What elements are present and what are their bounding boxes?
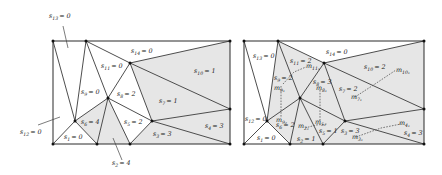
label-s1: s1= 0	[64, 133, 83, 142]
label-r-s14: s14= 0	[326, 48, 348, 57]
label-r-s5: s5= 1	[319, 127, 338, 136]
label-r-s1: s1= 0	[257, 134, 276, 143]
label-s10: s10= 1	[194, 67, 216, 76]
label-s5: s5= 2	[124, 118, 143, 127]
label-r-s9: s9= 2	[274, 74, 293, 83]
triangulation-figure: s13= 0 s12= 0 s2= 4 s14= 0 s11= 0 s10= 1…	[0, 0, 442, 175]
label-r-s10: s10= 2	[364, 63, 386, 72]
left-diagram: s13= 0 s12= 0 s2= 4 s14= 0 s11= 0 s10= 1…	[20, 12, 232, 168]
label-s12: s12= 0	[20, 128, 42, 137]
leader-s12	[38, 117, 60, 125]
label-s13: s13= 0	[49, 12, 71, 21]
leader-s13	[63, 26, 68, 48]
label-r-s2: s2= 1	[297, 135, 316, 144]
label-r-s12: s12= 0	[245, 115, 267, 124]
label-s11: s11= 0	[101, 62, 123, 71]
label-s2: s2= 4	[112, 159, 131, 168]
right-diagram: s13= 0 s14= 0 s11= 2 s10= 2 s9= 2 s8= 3 …	[243, 40, 426, 146]
label-s14: s14= 0	[131, 47, 153, 56]
label-s3: s3= 3	[153, 130, 172, 139]
label-r-s4: s4= 3	[404, 129, 423, 138]
label-s9: s9= 0	[81, 88, 100, 97]
label-s6: s6= 4	[81, 118, 100, 127]
label-s7: s7= 1	[159, 97, 178, 106]
label-r-s13: s13= 0	[253, 52, 275, 61]
label-s4: s4= 3	[205, 122, 224, 131]
label-s8: s8= 2	[117, 90, 136, 99]
